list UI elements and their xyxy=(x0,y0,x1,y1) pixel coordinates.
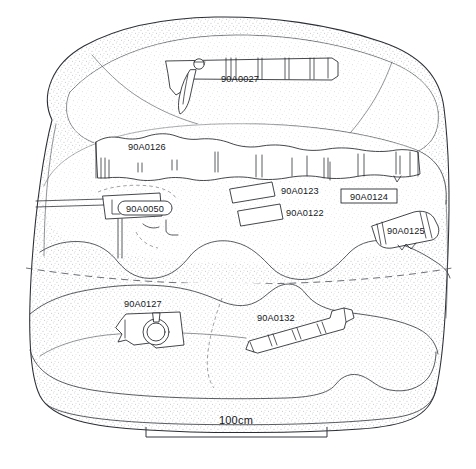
artifact-label-90A0127: 90A0127 xyxy=(124,299,162,309)
artifact-label-90A0050: 90A0050 xyxy=(126,204,164,214)
fitting-ring-inner-90A0127 xyxy=(147,323,165,341)
artifact-label-90A0123: 90A0123 xyxy=(281,186,319,196)
scale-bar-label: 100cm xyxy=(219,414,253,426)
artifact-90A0124[interactable]: 90A0124 xyxy=(341,189,397,203)
artifact-label-90A0027: 90A0027 xyxy=(221,74,259,84)
artifact-label-90A0126: 90A0126 xyxy=(128,142,166,152)
fitting-shank-90A0127 xyxy=(153,313,160,322)
artifact-label-90A0122: 90A0122 xyxy=(286,208,324,218)
site-plan-drawing: 90A0027 xyxy=(0,0,476,469)
artifact-label-90A0124: 90A0124 xyxy=(350,192,388,202)
artifact-label-90A0125: 90A0125 xyxy=(387,226,425,236)
artifact-label-90A0132: 90A0132 xyxy=(257,313,295,323)
site-plan-figure: 90A0027 xyxy=(0,0,476,469)
cannon-trunnion-90A0027 xyxy=(194,59,204,69)
